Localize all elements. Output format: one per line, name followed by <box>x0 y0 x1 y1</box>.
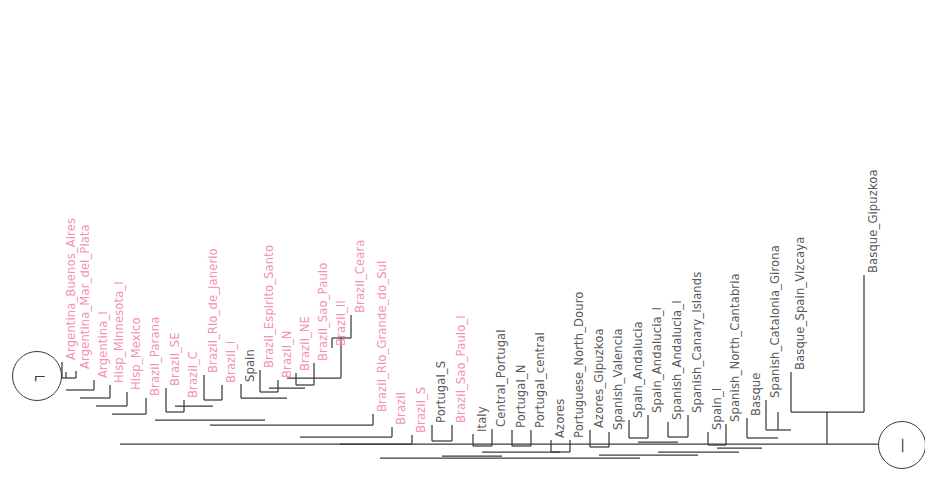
tip-label: Argentina_Mar_del_Plata <box>80 224 92 369</box>
node-badge-label: ┐ <box>30 371 45 380</box>
tip-label: Basque_Spain_Vizcaya <box>795 237 807 370</box>
tip-label: Brazil_Rio_de_Janerio <box>208 248 220 373</box>
tip-label: Brazil_NE <box>300 316 312 371</box>
badge-right: — <box>878 421 925 469</box>
tip-label: Portugal_S <box>436 361 448 423</box>
tip-label: Spain_Andalucia_I <box>652 307 664 413</box>
tip-label: Argentina_I <box>98 311 110 378</box>
tip-label: Azores <box>555 399 567 438</box>
tip-label: Spanish_Andalucia_I <box>672 300 684 420</box>
tip-label: Argentina_Buenos_Aires <box>66 218 78 360</box>
tip-label: Brazil_I <box>226 341 238 383</box>
tip-label: Spanish_Catalonia_Girona <box>770 245 782 398</box>
tip-label: Brazil_N <box>282 330 294 378</box>
tip-label: Spanish_North_Cantabria <box>730 273 742 422</box>
tip-label: Brazil_SE <box>170 332 182 386</box>
tip-label: Brazil_S <box>416 387 428 433</box>
tip-label: Spain <box>245 349 257 382</box>
tip-label: Brazil_C <box>188 351 200 398</box>
tip-label: Portugal_central <box>535 332 547 428</box>
tip-label: Spain_I <box>712 388 724 430</box>
phylogenetic-tree-figure: Argentina_Buenos_AiresArgentina_Mar_del_… <box>0 0 925 478</box>
tip-label: Brazil_Rio_Grande_do_Sul <box>377 261 389 412</box>
tip-label: Italy <box>477 406 489 432</box>
badge-left: ┐ <box>12 351 62 401</box>
tip-label: Hisp_Minnesota_I <box>114 281 126 383</box>
tip-label: Brazil_II <box>336 300 348 346</box>
tip-label: Spanish_Canary_Islands <box>692 272 704 413</box>
tip-label: Brazil <box>396 392 408 425</box>
tip-label: Basque <box>751 372 763 416</box>
tip-label: Brazil_Parana <box>150 317 162 396</box>
tip-label: Brazil_Espirito_Santo <box>264 245 276 368</box>
tip-label: Basque_Gipuzkoa <box>868 169 880 273</box>
tip-label: Portuguese_North_Douro <box>574 291 586 438</box>
tip-label: Spanish_Valencia <box>613 328 625 430</box>
tip-label: Spain_Andalucia <box>633 321 645 418</box>
tip-label: Central_Portugal <box>496 329 508 427</box>
tip-label: Brazil_Sao_Paulo <box>318 263 330 361</box>
tip-label: Brazil_Sao_Paulo_I <box>456 315 468 423</box>
node-badge-label: — <box>895 438 910 453</box>
tip-label: Portugal_N <box>516 365 528 429</box>
tip-label: Brazil_Ceara <box>355 239 367 313</box>
tip-label: Hisp_Mexico <box>131 317 143 390</box>
tip-label: Azores_Gipuzkoa <box>594 328 606 428</box>
